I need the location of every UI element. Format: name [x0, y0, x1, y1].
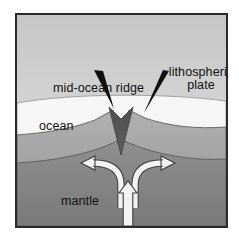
label-lithospheric-plate-line2: plate	[187, 78, 215, 92]
label-mantle: mantle	[61, 195, 99, 208]
label-mid-ocean-ridge: mid-ocean ridge	[53, 82, 144, 95]
label-lithospheric-plate-line1: lithospheric	[169, 65, 228, 79]
diagram-frame: mid-ocean ridge lithospheric plate ocean…	[15, 13, 228, 228]
label-lithospheric-plate: lithospheric plate	[163, 66, 228, 92]
diagram-figure: mid-ocean ridge lithospheric plate ocean…	[0, 0, 239, 239]
label-ocean: ocean	[39, 120, 74, 133]
